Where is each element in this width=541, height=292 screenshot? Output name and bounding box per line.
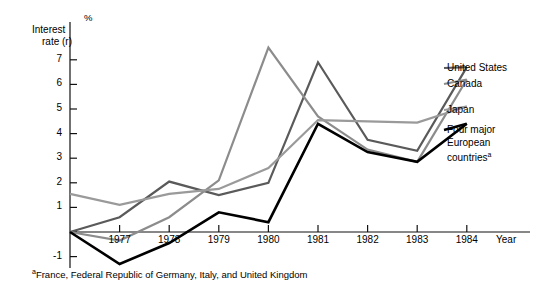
- chart-footnote: aFrance, Federal Republic of Germany, It…: [32, 268, 308, 280]
- y-tick-label: 4: [46, 127, 62, 138]
- x-tick-label: 1979: [197, 234, 241, 245]
- legend-item-1: United States: [447, 62, 507, 75]
- legend-item-2: Canada: [447, 78, 482, 91]
- footnote-text: France, Federal Republic of Germany, Ita…: [36, 269, 308, 280]
- x-tick-label: 1983: [395, 234, 439, 245]
- legend-item-3: Japan: [447, 104, 474, 117]
- y-tick-label: 6: [46, 77, 62, 88]
- y-axis-title-line1: Interest: [32, 24, 65, 36]
- y-tick-label: 1: [46, 200, 62, 211]
- y-tick-label: 2: [46, 176, 62, 187]
- y-axis-title-line2: rate (r): [42, 36, 72, 48]
- y-tick-label: 5: [46, 102, 62, 113]
- x-axis-ticks: [120, 225, 467, 232]
- x-tick-label: 1981: [296, 234, 340, 245]
- legend-label-line: European: [447, 137, 495, 150]
- legend-item-4: Four majorEuropeancountriesa: [447, 124, 495, 165]
- x-tick-label: 1982: [346, 234, 390, 245]
- y-tick-label: 3: [46, 151, 62, 162]
- y-axis-unit-label: %: [84, 12, 92, 24]
- legend-label-line: countriesa: [447, 149, 495, 165]
- series-line-1: [70, 62, 467, 232]
- x-tick-label: 1980: [246, 234, 290, 245]
- y-axis-ticks: [70, 60, 77, 257]
- x-axis-title: Year: [496, 234, 516, 245]
- series-line-3: [70, 107, 467, 205]
- x-tick-label: 1984: [445, 234, 489, 245]
- legend-footnote-marker: a: [488, 151, 492, 158]
- interest-rate-line-chart: % Interest rate (r) 7654321-1 1977197819…: [0, 0, 541, 292]
- x-tick-label: 1977: [98, 234, 142, 245]
- y-tick-label: -1: [46, 250, 62, 261]
- y-tick-label: 7: [46, 53, 62, 64]
- legend-label-line: Four major: [447, 124, 495, 137]
- series-line-2: [70, 48, 467, 241]
- x-tick-label: 1978: [147, 234, 191, 245]
